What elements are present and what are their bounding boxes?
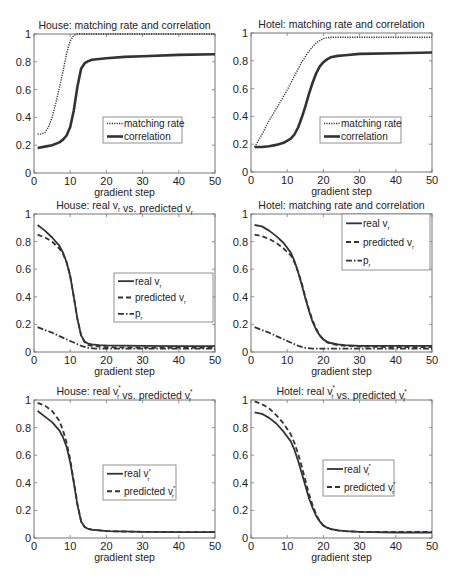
legend-entry: matching rate [341,118,402,129]
x-tick-label: 0 [248,174,254,186]
x-axis-label: gradient step [311,365,372,377]
x-tick-label: 10 [281,354,293,366]
subplot-hotel-matching: 0102030405000.20.40.60.81Hotel: matching… [233,18,438,197]
y-tick-label: 1 [25,28,31,40]
x-tick-label: 0 [31,354,37,366]
x-tick-label: 0 [248,540,254,552]
x-tick-label: 10 [64,354,76,366]
legend: real v*rpredicted v*r [323,460,396,496]
x-tick-label: 10 [281,540,293,552]
y-tick-label: 0.2 [233,318,248,330]
y-tick-label: 0 [25,532,31,544]
x-tick-label: 40 [390,354,402,366]
subplot-hotel-vr-star: 0102030405000.20.40.60.81Hotel: real v*r… [233,384,438,563]
y-tick-label: 0 [242,532,248,544]
y-tick-label: 0 [25,346,31,358]
y-tick-label: 0.4 [16,477,31,489]
x-axis-label: gradient step [94,551,155,563]
x-tick-label: 50 [209,354,221,366]
y-tick-label: 1 [25,394,31,406]
legend: matching ratecorrelation [320,117,402,143]
y-tick-label: 0.8 [233,422,248,434]
x-axis-label: gradient step [311,185,372,197]
x-tick-label: 40 [390,540,402,552]
x-tick-label: 40 [173,540,185,552]
y-tick-label: 0.8 [16,56,31,68]
x-tick-label: 0 [248,354,254,366]
legend-entry: correlation [124,131,171,142]
y-tick-label: 0.4 [16,111,31,123]
legend: real vrpredicted vrpr [114,273,213,322]
y-tick-label: 1 [242,208,248,220]
legend: real vrpredicted vrpr [342,214,430,270]
y-tick-label: 1 [242,394,248,406]
x-tick-label: 50 [209,175,221,187]
subplot-house-matching: 0102030405000.20.40.60.81House: matching… [16,19,221,198]
y-tick-label: 0.2 [16,139,31,151]
y-tick-label: 0.4 [233,110,248,122]
y-tick-label: 0.4 [16,291,31,303]
subplot-house-vr-star: 0102030405000.20.40.60.81House: real v*r… [16,384,221,563]
chart-title: House: matching rate and correlation [38,19,210,31]
x-tick-label: 0 [31,540,37,552]
x-axis-label: gradient step [311,551,372,563]
x-tick-label: 50 [426,354,438,366]
x-tick-label: 10 [64,540,76,552]
legend: real v*rpredicted v*r [103,465,176,500]
y-tick-label: 0.6 [233,449,248,461]
y-tick-label: 0.2 [16,318,31,330]
figure: 0102030405000.20.40.60.81House: matching… [0,0,452,578]
y-tick-label: 0 [242,346,248,358]
x-tick-label: 40 [173,354,185,366]
y-tick-label: 0.6 [16,263,31,275]
y-tick-label: 0.2 [233,504,248,516]
x-tick-label: 0 [31,175,37,187]
y-tick-label: 0.6 [233,83,248,95]
y-tick-label: 0.8 [233,55,248,67]
y-tick-label: 0.8 [233,236,248,248]
x-axis-label: gradient step [94,186,155,198]
y-tick-label: 0.6 [16,84,31,96]
y-tick-label: 1 [242,27,248,39]
y-tick-label: 0.4 [233,291,248,303]
x-tick-label: 40 [173,175,185,187]
y-tick-label: 0 [242,166,248,178]
legend: matching ratecorrelation [103,117,185,143]
x-tick-label: 50 [426,174,438,186]
y-tick-label: 0.2 [233,138,248,150]
legend-entry: matching rate [124,118,185,129]
subplot-hotel-vr: 0102030405000.20.40.60.81Hotel: matching… [233,199,438,377]
y-tick-label: 0.6 [16,449,31,461]
y-tick-label: 0 [25,167,31,179]
y-tick-label: 0.8 [16,422,31,434]
x-tick-label: 50 [209,540,221,552]
y-tick-label: 0.2 [16,504,31,516]
chart-title: Hotel: matching rate and correlation [258,199,424,211]
subplot-house-vr: 0102030405000.20.40.60.81House: real vr … [16,199,221,377]
y-tick-label: 0.6 [233,263,248,275]
legend-entry: correlation [341,131,388,142]
x-tick-label: 50 [426,540,438,552]
y-tick-label: 0.8 [16,236,31,248]
x-tick-label: 10 [281,174,293,186]
y-tick-label: 0.4 [233,477,248,489]
y-tick-label: 1 [25,208,31,220]
x-tick-label: 40 [390,174,402,186]
chart-title: Hotel: matching rate and correlation [258,18,424,30]
x-tick-label: 10 [64,175,76,187]
x-axis-label: gradient step [94,365,155,377]
